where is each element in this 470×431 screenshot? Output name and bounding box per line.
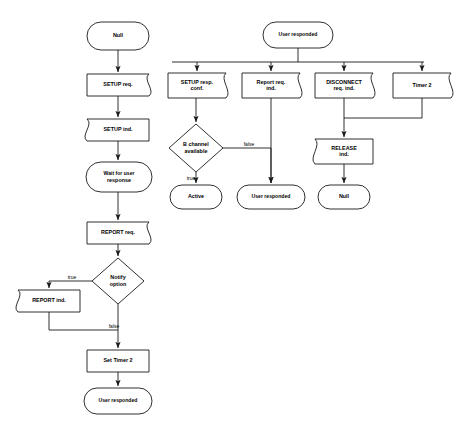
node-label-active-state: Active [188,193,204,199]
node-report-req-ind[interactable]: Report req.ind. [242,73,302,98]
node-label-b-channel-avail: B channel [183,141,209,147]
node-setup-ind[interactable]: SETUP ind. [85,119,149,141]
node-user-responded-end[interactable]: User responded [84,388,152,414]
node-label-notify-option: option [110,281,126,287]
node-label-setup-req: SETUP req. [103,81,133,87]
edges-layer [49,48,424,386]
edge-label-lbl-bchan-false: false [244,141,255,147]
node-label-report-req-ind: ind. [266,85,276,91]
node-label-notify-option: Notify [110,274,125,280]
node-disconnect-req-ind[interactable]: DISCONNECTreq. ind. [315,73,375,98]
node-label-disconnect-req-ind: DISCONNECT [326,79,362,85]
node-label-wait-for-user: response [107,177,131,183]
node-report-ind[interactable]: REPORT ind. [16,290,80,312]
node-null-start[interactable]: Null [87,22,149,50]
edge-label-lbl-bchan-true: true [187,175,196,181]
node-wait-for-user[interactable]: Wait for userresponse [86,162,152,192]
edge-label-lbl-notify-true: true [68,274,77,280]
node-label-set-timer-2: Set Timer 2 [104,357,133,363]
node-user-responded-mid[interactable]: User responded [237,185,305,209]
node-label-null-end: Null [339,193,350,199]
node-timer-2[interactable]: Timer 2 [393,73,453,98]
edge-e-notify-true [49,281,92,288]
node-null-end[interactable]: Null [318,185,370,209]
edge-e-bchan-false [223,148,271,183]
node-label-report-req-ind: Report req. [257,79,286,85]
edge-e-ur-bus [172,48,424,62]
edge-e-timer2-merge [344,98,422,118]
node-label-setup-ind: SETUP ind. [104,126,133,132]
node-label-null-start: Null [113,32,124,38]
node-setup-req[interactable]: SETUP req. [87,74,151,96]
node-label-release-ind: ind. [339,151,349,157]
node-notify-option[interactable]: Notifyoption [92,258,144,304]
node-label-setup-resp-conf: conf. [191,85,204,91]
node-set-timer-2[interactable]: Set Timer 2 [87,350,149,372]
node-setup-resp-conf[interactable]: SETUP resp.conf. [168,73,228,98]
node-label-setup-resp-conf: SETUP resp. [181,79,214,85]
node-label-timer-2: Timer 2 [412,82,431,88]
node-report-req[interactable]: REPORT req. [87,222,151,244]
node-label-user-responded-end: User responded [99,397,138,403]
edge-label-lbl-notify-false: false [109,323,120,329]
node-release-ind[interactable]: RELEASEind. [313,139,373,164]
node-label-wait-for-user: Wait for user [104,170,135,176]
node-label-report-req: REPORT req. [101,229,135,235]
edge-e-reportind-merge [49,312,118,330]
node-label-disconnect-req-ind: req. ind. [334,85,355,91]
node-label-report-ind: REPORT ind. [32,297,66,303]
node-active-state[interactable]: Active [170,185,222,209]
node-label-user-responded-mid: User responded [252,193,291,199]
node-b-channel-avail[interactable]: B channelavailable [169,124,223,172]
node-label-release-ind: RELEASE [331,145,357,151]
node-label-user-responded-start: User responded [279,31,318,37]
node-user-responded-start[interactable]: User responded [263,22,333,48]
flowchart-svg: NullSETUP req.SETUP ind.Wait for userres… [0,0,470,431]
node-label-b-channel-avail: available [185,148,208,154]
flowchart-canvas: NullSETUP req.SETUP ind.Wait for userres… [0,0,470,431]
nodes-layer: NullSETUP req.SETUP ind.Wait for userres… [16,22,453,414]
